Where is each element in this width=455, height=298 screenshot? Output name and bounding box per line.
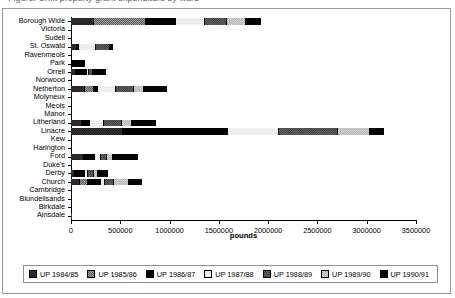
stacked-bar[interactable] — [71, 179, 142, 185]
bar-segment[interactable] — [84, 154, 95, 160]
bar-segment[interactable] — [246, 18, 261, 24]
bar-segment[interactable] — [71, 128, 123, 134]
bar-row — [71, 195, 416, 203]
bar-segment[interactable] — [129, 179, 142, 185]
x-axis-tick — [268, 220, 269, 224]
bar-segment[interactable] — [82, 120, 89, 126]
stacked-bar[interactable] — [71, 154, 138, 160]
bar-row — [71, 212, 416, 220]
bar-segment[interactable] — [123, 128, 227, 134]
stacked-bar[interactable] — [71, 69, 106, 75]
legend-label: UP 1988/89 — [274, 270, 312, 279]
bar-segment[interactable] — [370, 128, 385, 134]
bar-segment[interactable] — [76, 69, 87, 75]
bar-segment[interactable] — [122, 120, 132, 126]
bar-row — [71, 51, 416, 59]
bar-row — [71, 169, 416, 177]
legend-label: UP 1986/87 — [157, 270, 195, 279]
bar-segment[interactable] — [105, 179, 114, 185]
bar-row — [71, 42, 416, 50]
bar-row — [71, 161, 416, 169]
stacked-bar[interactable] — [71, 18, 261, 24]
bar-segment[interactable] — [85, 86, 94, 92]
legend-swatch-icon — [29, 270, 37, 278]
x-axis-tick — [219, 220, 220, 224]
bar-segment[interactable] — [104, 120, 122, 126]
bar-row — [71, 178, 416, 186]
legend-item[interactable]: UP 1987/88 — [204, 270, 253, 279]
bar-segment[interactable] — [110, 44, 113, 50]
x-axis-line — [71, 220, 416, 221]
bar-segment[interactable] — [75, 170, 85, 176]
bar-segment[interactable] — [228, 128, 279, 134]
chart-frame: Borough WideVictoriaSudellSt. OswaldRave… — [2, 8, 451, 294]
x-axis-tick — [367, 220, 368, 224]
bar-row — [71, 119, 416, 127]
legend-item[interactable]: UP 1989/90 — [321, 270, 370, 279]
bar-segment[interactable] — [71, 120, 82, 126]
figure-caption-strip: Figure: Unfit property grant expenditure… — [0, 0, 455, 7]
bar-segment[interactable] — [71, 86, 85, 92]
bar-segment[interactable] — [132, 120, 156, 126]
bar-segment[interactable] — [176, 18, 205, 24]
bar-segment[interactable] — [114, 179, 128, 185]
bar-row — [71, 85, 416, 93]
legend-swatch-icon — [321, 270, 329, 278]
bar-row — [71, 135, 416, 143]
legend-item[interactable]: UP 1986/87 — [146, 270, 195, 279]
legend-swatch-icon — [146, 270, 154, 278]
bar-segment[interactable] — [116, 86, 134, 92]
bar-segment[interactable] — [205, 18, 227, 24]
bar-segment[interactable] — [71, 18, 94, 24]
legend-label: UP 1985/86 — [98, 270, 136, 279]
legend-item[interactable]: UP 1990/91 — [380, 270, 429, 279]
stacked-bar[interactable] — [71, 128, 384, 134]
chart-legend: UP 1984/85UP 1985/86UP 1986/87UP 1987/88… — [23, 265, 438, 283]
bar-segment[interactable] — [90, 120, 104, 126]
x-axis-tick — [416, 220, 417, 224]
legend-swatch-icon — [263, 270, 271, 278]
bar-segment[interactable] — [93, 69, 106, 75]
bar-row — [71, 68, 416, 76]
bar-segment[interactable] — [71, 154, 84, 160]
stacked-bar[interactable] — [71, 60, 85, 66]
y-axis-label: Ainsdale — [3, 211, 69, 219]
bar-segment[interactable] — [146, 18, 177, 24]
legend-item[interactable]: UP 1984/85 — [29, 270, 78, 279]
legend-label: UP 1987/88 — [215, 270, 253, 279]
bar-segment[interactable] — [134, 86, 144, 92]
x-axis-tick — [120, 220, 121, 224]
bar-segment[interactable] — [96, 44, 110, 50]
bar-segment[interactable] — [79, 44, 96, 50]
bar-segment[interactable] — [279, 128, 338, 134]
legend-label: UP 1989/90 — [332, 270, 370, 279]
bar-segment[interactable] — [80, 179, 87, 185]
bar-segment[interactable] — [98, 86, 117, 92]
bar-segment[interactable] — [71, 60, 85, 66]
legend-swatch-icon — [380, 270, 388, 278]
x-axis-tick — [317, 220, 318, 224]
bar-row — [71, 186, 416, 194]
bar-row — [71, 110, 416, 118]
legend-item[interactable]: UP 1988/89 — [263, 270, 312, 279]
figure-caption: Figure: Unfit property grant expenditure… — [8, 0, 199, 3]
x-axis-title: pounds — [71, 231, 416, 240]
legend-swatch-icon — [204, 270, 212, 278]
stacked-bar[interactable] — [71, 170, 108, 176]
bar-segment[interactable] — [113, 154, 138, 160]
bar-segment[interactable] — [71, 179, 80, 185]
bar-segment[interactable] — [94, 18, 146, 24]
stacked-bar[interactable] — [71, 86, 167, 92]
bar-row — [71, 17, 416, 25]
bar-segment[interactable] — [144, 86, 167, 92]
stacked-bar[interactable] — [71, 44, 113, 50]
bar-segment[interactable] — [98, 170, 108, 176]
bar-row — [71, 59, 416, 67]
bar-row — [71, 152, 416, 160]
stacked-bar[interactable] — [71, 120, 156, 126]
bar-segment[interactable] — [338, 128, 370, 134]
axes: 0500000100000015000002000000250000030000… — [71, 17, 416, 220]
bar-segment[interactable] — [88, 179, 101, 185]
bar-segment[interactable] — [227, 18, 246, 24]
legend-item[interactable]: UP 1985/86 — [87, 270, 136, 279]
